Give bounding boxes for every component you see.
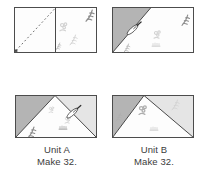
step2-stitch-corner-diagram (112, 7, 194, 53)
unit-b-diagram (112, 95, 194, 138)
corner-mark (15, 50, 17, 52)
unit-b-label: Unit B (111, 144, 197, 156)
unit-b-make-count: Make 32. (111, 156, 197, 168)
unit-a-label: Unit A (14, 144, 100, 156)
quilt-flying-geese-instructions: Unit A Make 32. Unit B Make 32. (0, 0, 202, 179)
unit-a-caption: Unit A Make 32. (14, 144, 100, 168)
step1-marked-squares-diagram (14, 7, 97, 53)
unit-a-make-count: Make 32. (14, 156, 100, 168)
unit-b-caption: Unit B Make 32. (111, 144, 197, 168)
unit-a-diagram (15, 95, 97, 138)
